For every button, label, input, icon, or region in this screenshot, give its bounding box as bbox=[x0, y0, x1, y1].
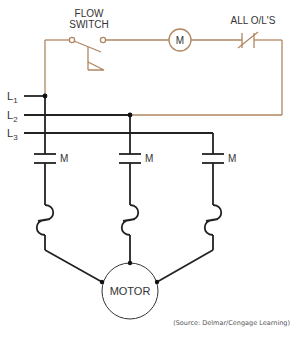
contact-1-label: M bbox=[60, 153, 68, 164]
flow-switch-icon bbox=[69, 37, 105, 70]
contact-3-label: M bbox=[228, 153, 236, 164]
source-credit: (Source: Delmar/Cengage Learning) bbox=[173, 319, 290, 327]
contact-2-label: M bbox=[145, 153, 153, 164]
overload-heater-1-icon bbox=[37, 205, 54, 235]
motor-terminal-1 bbox=[100, 280, 104, 284]
control-circuit bbox=[45, 29, 282, 115]
l1-label: L1 bbox=[7, 90, 18, 105]
wiring-diagram: FLOW SWITCH M ALL O/L'S L1 L2 L3 M M M M… bbox=[0, 0, 296, 337]
motor-lead-1 bbox=[45, 250, 102, 282]
flow-switch-label-line1: FLOW bbox=[75, 8, 104, 19]
motor-lead-3 bbox=[157, 250, 213, 282]
junction-l1 bbox=[43, 94, 48, 99]
overload-heater-3-icon bbox=[205, 205, 222, 235]
motor-label: MOTOR bbox=[110, 285, 151, 297]
overload-heater-2-icon bbox=[122, 205, 139, 235]
power-circuit bbox=[24, 96, 224, 282]
flow-switch-label-line2: SWITCH bbox=[69, 19, 108, 30]
l3-label: L3 bbox=[7, 127, 18, 142]
motor-terminal-3 bbox=[155, 280, 159, 284]
junction-dots bbox=[43, 94, 160, 285]
l2-label: L2 bbox=[7, 109, 18, 124]
motor-terminal-2 bbox=[128, 261, 132, 265]
junction-l2 bbox=[128, 113, 133, 118]
coil-label: M bbox=[176, 35, 184, 46]
overloads-label: ALL O/L'S bbox=[231, 15, 276, 26]
